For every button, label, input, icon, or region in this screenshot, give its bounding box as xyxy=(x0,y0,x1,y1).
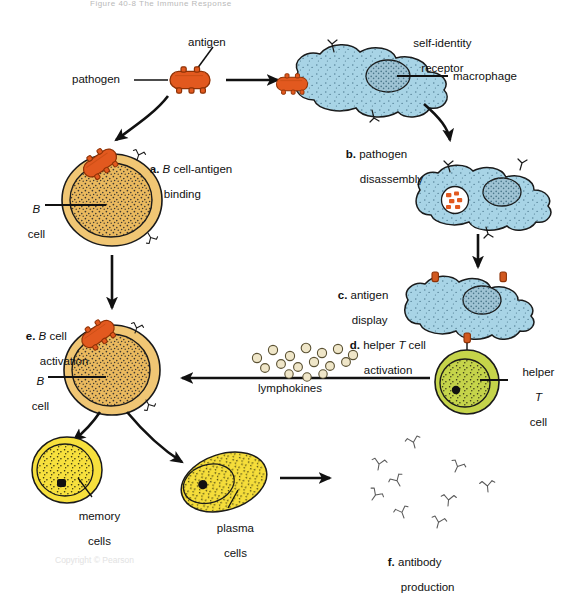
step-c-text-1: antigen xyxy=(351,289,389,301)
label-macrophage: macrophage xyxy=(453,70,517,83)
step-c-text-2: display xyxy=(352,314,388,326)
step-a-text-2: cell-antigen xyxy=(170,163,232,175)
label-plasma-cells: plasma cells xyxy=(196,509,262,572)
b-cell-2-line2: cell xyxy=(32,400,49,412)
memory-cell xyxy=(32,437,102,503)
helper-t-line1: helper xyxy=(522,366,554,378)
b-cell-1-line1: B xyxy=(33,203,41,215)
step-b-label: b. pathogen disassembly xyxy=(333,135,423,198)
plasma-cells-line1: plasma xyxy=(217,522,254,534)
label-memory-cells: memory cells xyxy=(57,497,129,560)
memory-cells-line2: cells xyxy=(88,535,111,547)
step-e-marker: e. xyxy=(26,330,36,342)
step-b-marker: b. xyxy=(346,148,356,160)
step-a-text-3: binding xyxy=(164,188,201,200)
self-identity-receptor-line1: self-identity xyxy=(413,37,471,49)
label-b-cell-1: B cell xyxy=(10,190,50,253)
step-d-marker: d. xyxy=(350,339,360,351)
step-f-marker: f. xyxy=(388,556,395,568)
step-d-label: d. helper T cell activation xyxy=(337,326,426,389)
label-antigen: antigen xyxy=(188,36,226,49)
b-cell-2-line1: B xyxy=(37,375,45,387)
arrow-bcell-to-memory xyxy=(74,412,100,440)
helper-t-line2: T xyxy=(535,391,542,403)
step-f-text-1: antibody xyxy=(398,556,441,568)
label-helper-t-cell: helper T cell xyxy=(505,353,559,441)
step-b-text-1: pathogen xyxy=(359,148,407,160)
plasma-cells-line2: cells xyxy=(224,547,247,559)
step-b-text-2: disassembly xyxy=(360,173,423,185)
memory-cells-line1: memory xyxy=(79,510,121,522)
arrow-bcell-to-plasma xyxy=(127,412,182,462)
antibody-molecules xyxy=(366,435,496,530)
step-d-text-1: helper xyxy=(363,339,398,351)
step-e-text-2: cell xyxy=(46,330,66,342)
b-cell-1-line2: cell xyxy=(28,228,45,240)
step-a-label: a. B cell-antigen binding xyxy=(137,150,232,213)
helper-t-line3: cell xyxy=(530,416,547,428)
step-d-text-3: cell xyxy=(405,339,425,351)
arrow-pathogen-to-bcell xyxy=(116,96,168,140)
step-d-text-4: activation xyxy=(364,364,413,376)
label-pathogen: pathogen xyxy=(72,73,120,86)
step-f-text-2: production xyxy=(401,581,455,593)
step-f-label: f. antibody production xyxy=(375,543,455,597)
label-lymphokines: lymphokines xyxy=(258,382,322,395)
step-a-marker: a. xyxy=(150,163,160,175)
figure-title: Figure 40-8 The Immune Response xyxy=(90,0,320,9)
pathogen-top xyxy=(170,67,210,93)
helper-t-cell xyxy=(435,350,508,414)
step-c-marker: c. xyxy=(338,289,348,301)
pathogen-disassembly-cell xyxy=(416,159,551,238)
label-b-cell-2: B cell xyxy=(14,362,54,425)
